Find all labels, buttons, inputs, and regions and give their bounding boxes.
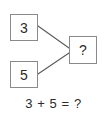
connector-addend-one-to-sum — [38, 26, 69, 48]
number-bond-diagram: 3 5 ? 3 + 5 = ? — [0, 0, 107, 115]
addend-two-value: 5 — [20, 67, 28, 81]
connector-addend-two-to-sum — [38, 53, 69, 74]
addend-one-box: 3 — [10, 14, 38, 41]
addend-one-value: 3 — [20, 20, 28, 34]
sum-box: ? — [69, 36, 97, 64]
addend-two-box: 5 — [10, 61, 38, 88]
equation-text: 3 + 5 = ? — [0, 95, 107, 113]
sum-value: ? — [79, 43, 87, 57]
